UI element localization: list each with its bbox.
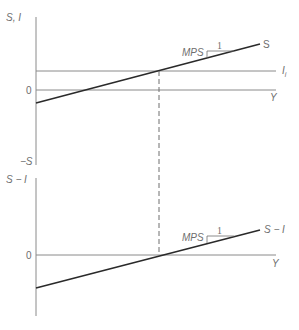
top-y-axis-label: S, I xyxy=(6,12,21,23)
bottom-panel: S − I 0 MPS 1 S − I Y xyxy=(6,174,285,316)
negative-saving-label: −S xyxy=(20,156,33,167)
bottom-origin-label: 0 xyxy=(26,250,32,261)
saving-line-label: S xyxy=(263,39,270,50)
run-label-top: 1 xyxy=(217,40,222,51)
net-saving-line xyxy=(36,230,260,288)
mps-label-bottom: MPS xyxy=(182,232,204,243)
saving-line xyxy=(36,44,260,103)
mps-label-top: MPS xyxy=(182,47,204,58)
top-origin-label: 0 xyxy=(26,85,32,96)
run-label-bottom: 1 xyxy=(217,225,222,236)
net-saving-line-label: S − I xyxy=(264,224,285,235)
savings-investment-diagram: S, I 0 −S MPS 1 S Ii Y S − I 0 MPS 1 S −… xyxy=(0,0,299,330)
top-panel: S, I 0 −S MPS 1 S Ii Y xyxy=(6,12,287,167)
investment-line-label: Ii xyxy=(282,65,287,78)
bottom-x-axis-label: Y xyxy=(272,258,280,269)
top-x-axis-label: Y xyxy=(270,92,278,103)
bottom-y-axis-label: S − I xyxy=(6,174,27,185)
